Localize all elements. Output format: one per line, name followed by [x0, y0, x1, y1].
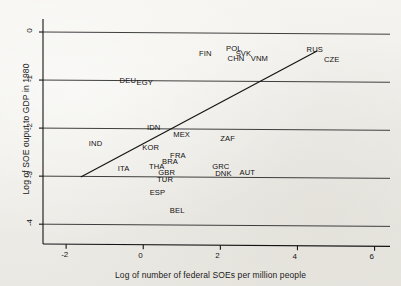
data-point-label: TUR [157, 175, 173, 184]
x-tick-label: -2 [61, 250, 68, 259]
x-axis-title: Log of number of federal SOEs per millio… [83, 270, 338, 280]
data-point-label: ESP [150, 188, 166, 197]
data-point-label: DEU [120, 76, 136, 85]
data-point-label: KOR [142, 143, 159, 152]
data-point-label: AUT [240, 168, 256, 177]
y-tick-label: -4 [25, 216, 34, 230]
data-point-label: IND [89, 139, 103, 148]
axes-group [43, 19, 390, 246]
data-point-label: MEX [173, 130, 190, 139]
x-tick-label: 6 [370, 252, 374, 261]
y-tick-label: 0 [25, 24, 34, 38]
fit-line [81, 51, 318, 177]
y-tick-label: -1 [25, 72, 34, 86]
y-tick-label: -2 [25, 120, 34, 134]
data-point-label: BEL [170, 206, 185, 215]
x-tick-label: 2 [215, 251, 219, 260]
data-point-label: VNM [251, 54, 268, 63]
data-point-label: DNK [215, 169, 231, 178]
x-tick-label: 4 [292, 252, 296, 261]
data-point-label: CZE [324, 55, 340, 64]
data-point-label: ZAF [220, 134, 235, 143]
data-point-label: IDN [147, 123, 161, 132]
data-point-label: ITA [118, 164, 130, 173]
data-point-label: RUS [307, 45, 323, 54]
data-point-label: FIN [199, 49, 212, 58]
y-tick-label: -3 [25, 168, 34, 182]
scatter-plot-canvas [0, 0, 401, 286]
data-point-label: CHN [228, 54, 245, 63]
data-point-label: EGY [137, 78, 154, 87]
x-tick-label: 0 [138, 251, 142, 260]
